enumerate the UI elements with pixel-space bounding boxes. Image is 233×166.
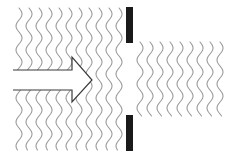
transmitted-wavefront (177, 42, 183, 116)
transmitted-wavefront (167, 42, 173, 116)
diffraction-diagram: Wave diffraction through a single slit (0, 0, 233, 166)
barrier-top-segment (126, 7, 133, 43)
transmitted-wavefront (207, 42, 213, 116)
transmitted-wavefronts (137, 42, 223, 116)
incident-wavefront (96, 8, 102, 150)
diagram-canvas: Wave diffraction through a single slit (0, 0, 233, 166)
transmitted-wavefront (197, 42, 203, 116)
transmitted-wavefront (157, 42, 163, 116)
incident-wavefront (116, 8, 122, 150)
slit-barrier (126, 7, 133, 151)
transmitted-wavefront (137, 42, 143, 116)
transmitted-wavefront (147, 42, 153, 116)
transmitted-wavefront (217, 42, 223, 116)
barrier-bottom-segment (126, 115, 133, 151)
propagation-arrow-icon (13, 57, 92, 102)
incident-wavefront (106, 8, 112, 150)
transmitted-wavefront (187, 42, 193, 116)
